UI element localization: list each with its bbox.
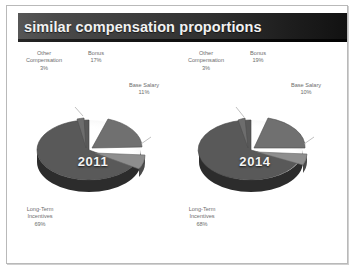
- label-bonus-2011: Bonus 17%: [73, 50, 119, 65]
- label-long-term-line2-2011: Incentives: [27, 213, 52, 219]
- slide-frame: similar compensation proportions Other C…: [6, 5, 348, 264]
- label-long-term-line1-2014: Long-Term: [189, 206, 216, 212]
- pie-svg-2014: [191, 92, 319, 202]
- label-base-salary-line1-2014: Base Salary: [291, 82, 321, 88]
- label-other-compensation-line2-2011: Compensation: [26, 57, 62, 63]
- label-long-term-line2-2014: Incentives: [189, 213, 214, 219]
- label-long-term-incentives-2014: Long-Term Incentives 68%: [171, 206, 233, 228]
- label-long-term-incentives-2011: Long-Term Incentives 69%: [9, 206, 71, 228]
- leader-line-base-2011: [141, 137, 151, 144]
- label-other-compensation-pct-2014: 3%: [175, 65, 237, 72]
- pie-chart-2011: Other Compensation 3% Bonus 17% Base Sal…: [7, 44, 178, 264]
- banner-left-notch: [7, 13, 18, 42]
- pie-svg-2011: [29, 92, 157, 202]
- label-bonus-2014: Bonus 19%: [235, 50, 281, 65]
- label-other-compensation-2011: Other Compensation 3%: [13, 50, 75, 72]
- label-other-compensation-line2-2014: Compensation: [188, 57, 224, 63]
- label-other-compensation-line1-2014: Other: [199, 50, 213, 56]
- label-long-term-pct-2014: 68%: [171, 221, 233, 228]
- label-other-compensation-pct-2011: 3%: [13, 65, 75, 72]
- page-title: similar compensation proportions: [24, 19, 262, 35]
- label-other-compensation-2014: Other Compensation 3%: [175, 50, 237, 72]
- label-long-term-line1-2011: Long-Term: [27, 206, 54, 212]
- label-bonus-line1-2011: Bonus: [88, 50, 104, 56]
- label-bonus-pct-2014: 19%: [235, 57, 281, 64]
- label-long-term-pct-2011: 69%: [9, 221, 71, 228]
- leader-line-base-2014: [304, 137, 314, 144]
- label-bonus-pct-2011: 17%: [73, 57, 119, 64]
- label-bonus-line1-2014: Bonus: [250, 50, 266, 56]
- pie-graphic-2011: 2011: [29, 92, 157, 202]
- pie-graphic-2014: 2014: [191, 92, 319, 202]
- charts-container: Other Compensation 3% Bonus 17% Base Sal…: [7, 44, 348, 264]
- label-base-salary-line1-2011: Base Salary: [129, 82, 159, 88]
- pie-chart-2014: Other Compensation 3% Bonus 19% Base Sal…: [169, 44, 340, 264]
- leader-line-other-2011: [75, 107, 83, 116]
- label-other-compensation-line1-2011: Other: [37, 50, 51, 56]
- leader-line-other-2014: [236, 107, 244, 117]
